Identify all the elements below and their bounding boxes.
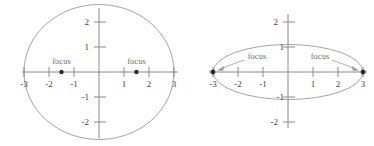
right-ylabel-pos1: 1: [280, 42, 285, 52]
right-xlabel-neg1: -1: [259, 79, 267, 89]
right-focus-label-negative: focus: [248, 51, 266, 61]
left-xlabel-pos2: 2: [147, 79, 152, 89]
left-focus-point-positive: [134, 70, 138, 74]
right-xlabel-pos3: 3: [361, 79, 366, 89]
left-xlabel-neg3: -3: [20, 79, 28, 89]
left-xlabel-pos3: 3: [172, 79, 177, 89]
left-plot-svg: -3 -2 -1 1 2 3 2 1 -1 -2 focus focus: [0, 0, 187, 146]
left-ylabel-neg1: -1: [82, 92, 90, 102]
right-ylabel-neg2: -2: [271, 117, 279, 127]
right-ylabel-pos2: 2: [274, 17, 279, 27]
right-ylabel-neg1: -1: [277, 92, 285, 102]
right-focus-point-positive: [361, 70, 366, 75]
right-ellipse-plot: -3 -2 -1 1 2 3 2 1 -1 -2 focus focus: [187, 0, 374, 146]
left-focus-point-negative: [59, 70, 63, 74]
left-ylabel-neg2: -2: [82, 117, 90, 127]
right-focus-label-positive: focus: [311, 51, 329, 61]
right-xlabel-pos1: 1: [311, 79, 316, 89]
right-focus-point-negative: [211, 70, 216, 75]
right-focus-arrowhead-negative: [217, 66, 224, 71]
right-focus-arrowhead-positive: [352, 66, 359, 71]
left-xlabel-neg1: -1: [70, 79, 78, 89]
right-xlabel-neg3: -3: [209, 79, 217, 89]
left-xlabel-pos1: 1: [122, 79, 127, 89]
left-ellipse-plot: -3 -2 -1 1 2 3 2 1 -1 -2 focus focus: [0, 0, 187, 146]
left-ylabel-pos1: 1: [85, 42, 90, 52]
figure-container: -3 -2 -1 1 2 3 2 1 -1 -2 focus focus: [0, 0, 374, 146]
left-xlabel-neg2: -2: [45, 79, 53, 89]
left-focus-label-positive: focus: [127, 56, 145, 66]
left-ylabel-pos2: 2: [85, 17, 90, 27]
right-xlabel-neg2: -2: [234, 79, 242, 89]
left-focus-label-negative: focus: [52, 56, 70, 66]
right-xlabel-pos2: 2: [336, 79, 341, 89]
right-plot-svg: -3 -2 -1 1 2 3 2 1 -1 -2 focus focus: [187, 0, 374, 146]
